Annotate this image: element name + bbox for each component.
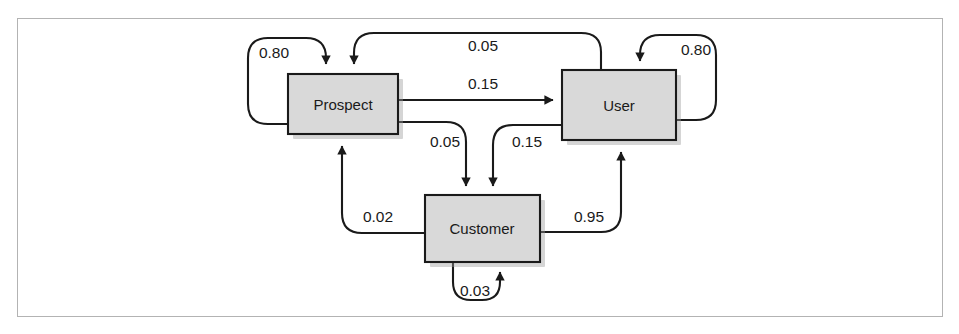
state-label-customer: Customer	[449, 220, 514, 237]
edge-label-user-to-prospect: 0.05	[468, 37, 498, 54]
edge-label-prospect-self: 0.80	[259, 44, 290, 61]
state-label-user: User	[603, 97, 635, 114]
state-label-prospect: Prospect	[313, 96, 373, 113]
state-node-user[interactable]: User	[562, 70, 681, 145]
edge-prospect-to-customer	[399, 122, 466, 186]
edge-label-user-to-customer: 0.15	[512, 133, 542, 150]
edge-label-prospect-to-customer: 0.05	[430, 133, 460, 150]
edge-label-customer-to-user: 0.95	[574, 208, 604, 225]
state-transition-diagram: Prospect User Customer 0.80 0.80 0.05 0.…	[0, 0, 959, 334]
figure-container: Prospect User Customer 0.80 0.80 0.05 0.…	[0, 0, 959, 334]
edge-label-prospect-to-user: 0.15	[468, 75, 498, 92]
edge-label-customer-self: 0.03	[460, 282, 490, 299]
state-node-prospect[interactable]: Prospect	[288, 74, 403, 139]
state-node-customer[interactable]: Customer	[425, 195, 545, 267]
edge-label-user-self: 0.80	[681, 41, 712, 58]
edge-label-customer-to-prospect: 0.02	[363, 208, 393, 225]
